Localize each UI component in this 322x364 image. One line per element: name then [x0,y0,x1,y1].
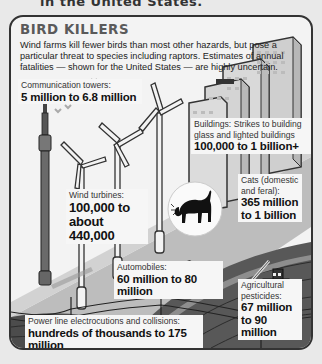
top-caption: in the United States. [40,0,203,9]
label-desc: Power line electrocutions and collisions… [28,316,200,327]
cat-icon [168,182,222,236]
label-cats: Cats (domestic and feral): 365 million t… [238,174,302,222]
label-value: 365 million to 1 billion [241,196,299,221]
label-desc: Cats (domestic and feral): [241,175,299,196]
label-communication-towers: Communication towers: 5 million to 6.8 m… [18,79,142,104]
intro-text: Wind farms kill fewer birds than most ot… [20,40,300,73]
label-desc: Automobiles: [117,262,220,273]
label-value: 100,000 to about 440,000 [69,201,145,243]
label-desc: Buildings: Strikes to building glass and… [194,119,312,140]
label-wind-turbines: Wind turbines: 100,000 to about 440,000 [66,189,148,244]
label-desc: Agricultural pesticides: [241,280,299,301]
label-value: 67 million to 90 million [241,301,299,339]
label-value: 60 million to 80 million [117,273,220,298]
label-value: 100,000 to 1 billion+ [194,140,312,153]
label-power-lines: Power line electrocutions and collisions… [25,315,203,350]
label-automobiles: Automobiles: 60 million to 80 million [114,261,223,299]
label-buildings: Buildings: Strikes to building glass and… [191,118,313,154]
label-value: 5 million to 6.8 million [21,91,139,104]
radio-tower-icon [37,81,53,285]
panel-title: BIRD KILLERS [20,21,129,37]
label-value: hundreds of thousands to 175 million [28,327,200,351]
bird-killers-panel: BIRD KILLERS Wind farms kill fewer birds… [9,15,313,350]
label-pesticides: Agricultural pesticides: 67 million to 9… [238,279,302,340]
label-desc: Wind turbines: [69,190,145,201]
label-desc: Communication towers: [21,80,139,91]
